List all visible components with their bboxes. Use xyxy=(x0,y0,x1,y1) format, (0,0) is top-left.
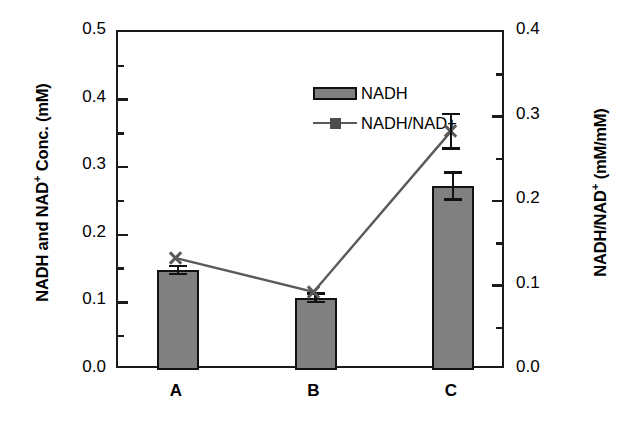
error-bar-cap-bottom xyxy=(444,198,462,201)
left-major-tick xyxy=(118,301,128,304)
legend-bar-swatch-icon xyxy=(313,87,357,100)
left-tick-label: 0.5 xyxy=(60,19,106,39)
left-major-tick xyxy=(118,234,128,237)
right-axis-title-tail: (mM/mM) xyxy=(591,108,609,183)
right-tick-label: 0.2 xyxy=(516,188,562,208)
legend-item-nadh-nad-ratio: NADH/NAD+ xyxy=(313,108,457,138)
error-bar-cap-bottom xyxy=(307,301,325,304)
left-axis-title: NADH and NAD+ Conc. (mM) xyxy=(33,23,52,363)
right-minor-tick xyxy=(496,242,502,245)
left-tick-label: 0.4 xyxy=(60,87,106,107)
error-bar-cap-top xyxy=(444,171,462,174)
left-tick-label: 0.1 xyxy=(60,289,106,309)
bar-error-bar xyxy=(169,265,187,276)
legend-label-nadh: NADH xyxy=(361,84,408,103)
left-tick-label: 0.0 xyxy=(60,357,106,377)
right-major-tick xyxy=(492,200,502,203)
x-axis-category-label: C xyxy=(421,381,481,401)
left-minor-tick xyxy=(118,267,124,270)
legend-item-nadh: NADH xyxy=(313,78,457,108)
x-marker xyxy=(168,250,184,266)
error-bar-stem xyxy=(450,113,453,150)
legend-square-marker-icon xyxy=(330,118,341,129)
left-tick-label: 0.2 xyxy=(60,222,106,242)
left-major-tick xyxy=(118,166,128,169)
left-minor-tick xyxy=(118,200,124,203)
x-axis-category-label: A xyxy=(146,381,206,401)
left-minor-tick xyxy=(118,335,124,338)
bar-error-bar xyxy=(444,171,462,201)
marker-error-bar xyxy=(442,113,460,150)
left-tick-label: 0.3 xyxy=(60,154,106,174)
right-axis-title: NADH/NAD+ (mM/mM) xyxy=(591,23,610,363)
plot-area: NADH NADH/NAD+ xyxy=(116,30,504,368)
right-axis-tick-labels: 0.00.10.20.30.4 xyxy=(516,0,562,425)
legend-line-swatch-icon xyxy=(313,117,357,130)
right-tick-label: 0.4 xyxy=(516,19,562,39)
bar xyxy=(157,270,199,370)
x-marker xyxy=(306,284,322,300)
right-minor-tick xyxy=(496,73,502,76)
right-tick-label: 0.3 xyxy=(516,104,562,124)
error-bar-cap-top xyxy=(442,113,460,116)
right-minor-tick xyxy=(496,158,502,161)
left-minor-tick xyxy=(118,65,124,68)
right-major-tick xyxy=(492,115,502,118)
right-tick-label: 0.1 xyxy=(516,273,562,293)
chart-figure: NADH and NAD+ Conc. (mM) NADH/NAD+ (mM/m… xyxy=(0,0,622,425)
right-axis-title-main: NADH/NAD xyxy=(591,190,609,276)
x-axis-category-label: B xyxy=(284,381,344,401)
error-bar-cap-bottom xyxy=(442,147,460,150)
left-major-tick xyxy=(118,98,128,101)
left-axis-title-tail: Conc. (mM) xyxy=(33,83,51,175)
bar xyxy=(295,298,337,370)
right-minor-tick xyxy=(496,327,502,330)
bar xyxy=(432,186,474,370)
right-axis-title-superscript: + xyxy=(589,184,601,191)
left-axis-title-main: NADH and NAD xyxy=(33,182,51,302)
left-minor-tick xyxy=(118,132,124,135)
legend: NADH NADH/NAD+ xyxy=(313,78,457,138)
error-bar-cap-bottom xyxy=(169,273,187,276)
right-tick-label: 0.0 xyxy=(516,357,562,377)
left-axis-tick-labels: 0.00.10.20.30.40.5 xyxy=(60,0,106,425)
right-major-tick xyxy=(492,284,502,287)
error-bar-stem xyxy=(452,171,455,201)
left-axis-title-superscript: + xyxy=(31,176,43,183)
